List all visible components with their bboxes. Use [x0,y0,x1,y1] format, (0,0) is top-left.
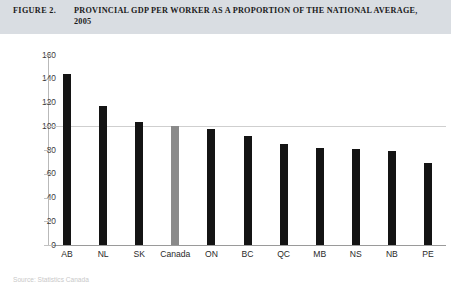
source-note: Source: Statistics Canada [13,276,89,283]
bar-bc [244,136,252,245]
bar-on [207,129,215,245]
bar-qc [280,144,288,245]
x-tick-label-nb: NB [386,249,398,259]
y-axis-title: Percent [0,116,1,144]
chart-container: Percent 160140120100806040200 ABNLSKCana… [0,34,451,270]
x-tick-label-bc: BC [242,249,254,259]
bar-ab [63,74,71,245]
x-tick-label-qc: QC [277,249,290,259]
y-tick-mark [44,245,53,246]
x-tick-label-pe: PE [422,249,433,259]
x-tick-label-canada: Canada [160,249,190,259]
x-tick-label-ab: AB [61,249,72,259]
bar-canada [171,126,179,245]
x-tick-label-mb: MB [313,249,326,259]
figure-number-label: FIGURE 2. [13,6,56,15]
figure-header-band: FIGURE 2. PROVINCIAL GDP PER WORKER AS A… [0,0,451,34]
bar-nb [388,151,396,245]
x-tick-label-sk: SK [133,249,144,259]
bar-mb [316,148,324,245]
plot-area [49,55,446,245]
bar-sk [135,122,143,246]
x-axis-line [48,245,446,246]
x-tick-label-ns: NS [350,249,362,259]
x-tick-label-on: ON [205,249,218,259]
x-tick-label-nl: NL [98,249,109,259]
bar-nl [99,106,107,245]
figure-title: PROVINCIAL GDP PER WORKER AS A PROPORTIO… [74,6,436,27]
bar-ns [352,149,360,245]
bar-pe [424,163,432,245]
